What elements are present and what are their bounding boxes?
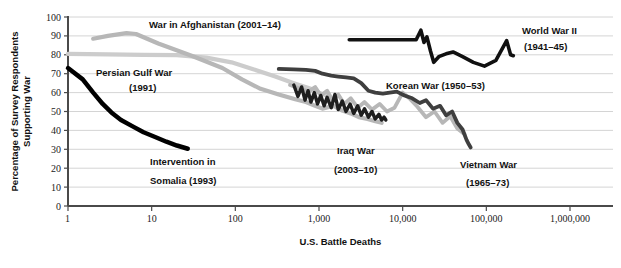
annotation-label-0: War in Afghanistan (2001–14) <box>149 19 281 30</box>
x-tick-label-10: 10 <box>147 213 157 224</box>
annotation-label-4: Somalia (1993) <box>150 175 217 186</box>
y-tick-label-90: 90 <box>51 30 61 41</box>
x-axis-title: U.S. Battle Deaths <box>300 236 382 247</box>
y-tick-label-10: 10 <box>51 182 61 193</box>
x-tick-label-1,000: 1,000 <box>308 213 331 224</box>
chart-container: 01020304050607080901001101001,00010,0001… <box>0 0 621 268</box>
y-tick-label-40: 40 <box>51 125 61 136</box>
y-tick-label-60: 60 <box>51 87 61 98</box>
annotation-label-5: Korean War (1950–53) <box>386 80 485 91</box>
annotation-label-6: Iraq War <box>337 145 375 156</box>
y-tick-label-20: 20 <box>51 163 61 174</box>
annotation-label-1: Persian Gulf War <box>96 67 172 78</box>
annotation-label-3: Intervention in <box>150 156 216 167</box>
y-tick-label-30: 30 <box>51 144 61 155</box>
annotation-label-9: (1965–73) <box>466 177 509 188</box>
x-tick-label-1,000,000: 1,000,000 <box>550 213 590 224</box>
x-tick-label-10,000: 10,000 <box>389 213 417 224</box>
y-axis-title-line1: Percentage of Survey Respondents <box>9 32 20 192</box>
x-tick-label-100,000: 100,000 <box>470 213 503 224</box>
y-tick-label-100: 100 <box>46 12 61 23</box>
annotation-label-11: (1941–45) <box>524 41 567 52</box>
y-tick-label-70: 70 <box>51 68 61 79</box>
annotation-label-2: (1991) <box>129 82 156 93</box>
x-tick-label-100: 100 <box>228 213 243 224</box>
annotation-label-7: (2003–10) <box>334 164 377 175</box>
series-line-intervention-in-somalia-1993 <box>68 68 188 149</box>
x-tick-label-1: 1 <box>65 213 70 224</box>
y-axis-title-line2: Supporting War <box>21 76 32 147</box>
annotation-label-10: World War II <box>522 25 577 36</box>
y-tick-label-80: 80 <box>51 49 61 60</box>
y-tick-label-50: 50 <box>51 106 61 117</box>
line-chart: 01020304050607080901001101001,00010,0001… <box>0 0 621 268</box>
y-tick-label-0: 0 <box>56 201 61 212</box>
annotation-label-8: Vietnam War <box>460 159 517 170</box>
